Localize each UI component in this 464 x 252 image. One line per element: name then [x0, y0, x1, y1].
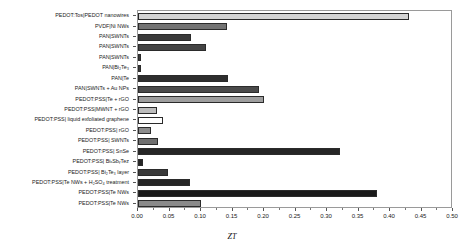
y-axis-tick: [133, 182, 136, 183]
x-axis-minor-tick: [373, 208, 374, 210]
bar-row: [138, 65, 453, 72]
x-axis-tick-label: 0.00: [131, 213, 143, 219]
bar: [138, 34, 191, 41]
bar: [138, 65, 141, 72]
bar: [138, 107, 157, 114]
y-axis-label: PEDOT:Tos|PEDOT nanowires: [0, 12, 129, 18]
y-axis-tick: [133, 192, 136, 193]
bar: [138, 169, 168, 176]
y-axis-tick: [133, 67, 136, 68]
y-axis-tick: [133, 151, 136, 152]
x-axis-tick-label: 0.45: [415, 213, 427, 219]
y-axis-tick: [133, 88, 136, 89]
x-axis-minor-tick: [153, 208, 154, 210]
y-axis-label: PEDOT:PSS| SnSe: [0, 148, 129, 154]
x-axis-tick: [326, 208, 327, 211]
x-axis-minor-tick: [405, 208, 406, 210]
x-axis-tick: [232, 208, 233, 211]
bar: [138, 179, 190, 186]
y-axis-label: PAN|SWNTs: [0, 54, 129, 60]
bar: [138, 190, 377, 197]
bar: [138, 54, 141, 61]
y-axis-label: PAN|SWNTs + Au NPs: [0, 85, 129, 91]
bar-row: [138, 200, 453, 207]
bar-row: [138, 13, 453, 20]
x-axis-tick: [358, 208, 359, 211]
x-axis-tick-label: 0.20: [257, 213, 269, 219]
y-axis-tick: [133, 78, 136, 79]
bar-row: [138, 190, 453, 197]
x-axis-minor-tick: [342, 208, 343, 210]
y-axis-tick: [133, 36, 136, 37]
x-axis-tick-label: 0.50: [446, 213, 458, 219]
x-axis-tick-label: 0.40: [383, 213, 395, 219]
bar: [138, 200, 201, 207]
bar-row: [138, 23, 453, 30]
y-axis-tick: [133, 99, 136, 100]
x-axis-tick: [295, 208, 296, 211]
bar-row: [138, 86, 453, 93]
y-axis-label: PEDOT:PSS| rGO: [0, 127, 129, 133]
bar-row: [138, 148, 453, 155]
bar: [138, 138, 158, 145]
bar-row: [138, 117, 453, 124]
bar-row: [138, 159, 453, 166]
x-axis-tick: [263, 208, 264, 211]
y-axis-label: PAN|SWNTs: [0, 33, 129, 39]
bar: [138, 75, 228, 82]
y-axis-label: PEDOT:PSS|Te NWs: [0, 189, 129, 195]
x-axis-tick: [421, 208, 422, 211]
y-axis-tick: [133, 172, 136, 173]
y-axis-tick: [133, 109, 136, 110]
x-axis-tick: [137, 208, 138, 211]
y-axis-tick: [133, 15, 136, 16]
bar: [138, 23, 227, 30]
y-axis-label: PAN|Te: [0, 75, 129, 81]
bar-row: [138, 138, 453, 145]
bar-row: [138, 169, 453, 176]
bar: [138, 159, 143, 166]
x-axis-tick-label: 0.10: [194, 213, 206, 219]
bar-row: [138, 75, 453, 82]
x-axis-tick: [452, 208, 453, 211]
y-axis-category-labels: PEDOT:Tos|PEDOT nanowiresPVDF|Ni NWsPAN|…: [0, 10, 133, 208]
x-axis-minor-tick: [310, 208, 311, 210]
x-axis-tick: [389, 208, 390, 211]
bar-row: [138, 54, 453, 61]
plot-area: [137, 10, 452, 208]
x-axis-tick-label: 0.30: [320, 213, 332, 219]
bar: [138, 96, 264, 103]
y-axis-label: PEDOT:PSS| SWNTs: [0, 137, 129, 143]
y-axis-label: PEDOT:PSS|Te + rGO: [0, 96, 129, 102]
y-axis-label: PEDOT:PSS|Te NWs: [0, 200, 129, 206]
x-axis-minor-tick: [216, 208, 217, 210]
x-axis-tick-label: 0.05: [163, 213, 175, 219]
y-axis-tick: [133, 130, 136, 131]
x-axis-tick: [169, 208, 170, 211]
bar: [138, 148, 340, 155]
y-axis-tick: [133, 26, 136, 27]
bar: [138, 127, 151, 134]
y-axis-label: PEDOT:PSS| BiₓSbᵧTeᴢ: [0, 158, 129, 164]
bar: [138, 44, 206, 51]
y-axis-tick: [133, 46, 136, 47]
y-axis-tick: [133, 119, 136, 120]
x-axis-minor-tick: [279, 208, 280, 210]
bar-row: [138, 34, 453, 41]
x-axis-title: ZT: [0, 232, 464, 241]
x-axis-tick-label: 0.15: [226, 213, 238, 219]
bar-row: [138, 96, 453, 103]
y-axis-label: PEDOT:PSS| Bi₂Te₃ layer: [0, 169, 129, 175]
y-axis-tick: [133, 140, 136, 141]
thermoelectric-zt-bar-chart: PEDOT:Tos|PEDOT nanowiresPVDF|Ni NWsPAN|…: [0, 0, 464, 252]
x-axis-minor-tick: [184, 208, 185, 210]
y-axis-label: PEDOT:PSS|MWNT + rGO: [0, 106, 129, 112]
y-axis-tick: [133, 161, 136, 162]
y-axis-label: PAN|Bi₂Te₃: [0, 64, 129, 70]
x-axis-tick-label: 0.35: [352, 213, 364, 219]
y-axis-label: PVDF|Ni NWs: [0, 23, 129, 29]
y-axis-tick: [133, 57, 136, 58]
bar-row: [138, 127, 453, 134]
y-axis-label: PEDOT:PSS|Te NWs + H₂SO₄ treatment: [0, 179, 129, 185]
bar-row: [138, 44, 453, 51]
